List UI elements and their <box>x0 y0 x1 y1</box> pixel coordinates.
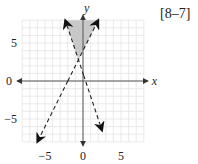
x-tick-label: −5 <box>39 149 52 163</box>
y-axis-label: y <box>83 1 90 15</box>
boundary-2-half-b <box>84 75 102 130</box>
y-tick-label: 5 <box>11 36 17 50</box>
y-tick-label: −5 <box>4 112 17 126</box>
x-tick-label: 5 <box>118 149 124 163</box>
y-tick-label: 0 <box>6 74 12 88</box>
problem-reference: [8–7] <box>160 6 190 22</box>
inequality-graph: −50550−5xy <box>0 0 198 164</box>
x-tick-label: 0 <box>80 149 86 163</box>
x-axis-label: x <box>151 74 158 88</box>
